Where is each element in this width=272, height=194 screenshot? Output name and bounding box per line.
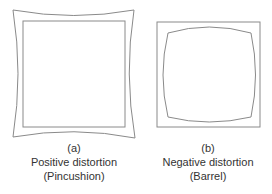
- panel-b-subtitle: (Barrel): [143, 169, 272, 183]
- barrel-reference-square: [157, 22, 260, 127]
- panel-a-title: Positive distortion: [9, 155, 139, 169]
- panel-a-label: (a): [9, 141, 139, 155]
- pincushion-distorted-outline: [13, 10, 135, 138]
- panel-b-title: Negative distortion: [143, 155, 272, 169]
- barrel-distorted-outline: [163, 27, 256, 122]
- pincushion-reference-square: [23, 21, 125, 127]
- caption-panel-a: (a) Positive distortion (Pincushion): [9, 141, 139, 183]
- panel-b-barrel: [157, 22, 260, 127]
- caption-panel-b: (b) Negative distortion (Barrel): [143, 141, 272, 183]
- panel-a-subtitle: (Pincushion): [9, 169, 139, 183]
- panel-a-pincushion: [13, 10, 135, 138]
- panel-b-label: (b): [143, 141, 272, 155]
